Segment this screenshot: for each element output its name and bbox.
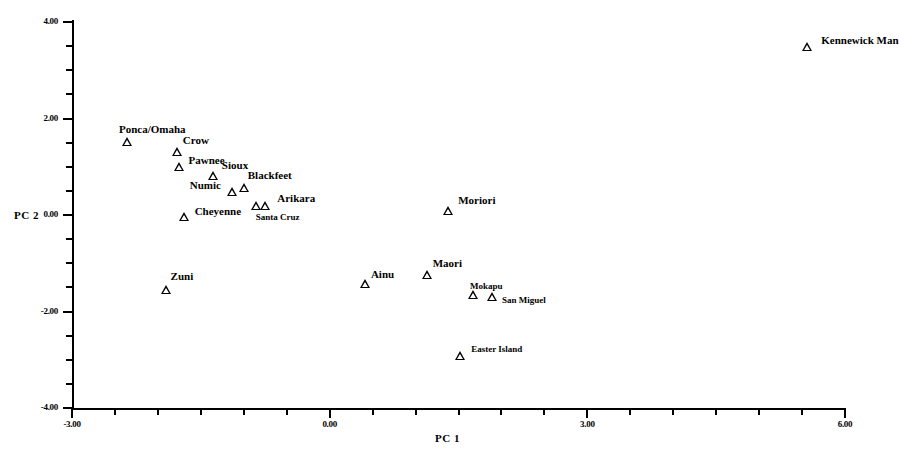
- x-axis-tick-label: 3.00: [557, 420, 617, 429]
- data-point-marker[interactable]: [239, 183, 249, 192]
- y-axis-tick-minor: [66, 383, 73, 385]
- y-axis-tick-major: [63, 214, 73, 216]
- x-axis-tick-minor: [157, 409, 159, 415]
- y-axis-tick-minor: [66, 69, 73, 71]
- x-axis-tick-minor: [672, 409, 674, 415]
- x-axis-tick-label: -3.00: [42, 420, 102, 429]
- data-point-label: Mokapu: [470, 281, 503, 291]
- data-point-marker[interactable]: [443, 206, 453, 215]
- data-point-marker[interactable]: [487, 292, 497, 301]
- y-axis-tick-minor: [66, 262, 73, 264]
- data-point-marker[interactable]: [174, 162, 184, 171]
- x-axis-tick-minor: [801, 409, 803, 415]
- data-point-label: Maori: [433, 258, 462, 268]
- y-axis-tick-major: [63, 118, 73, 120]
- x-axis-tick-minor: [114, 409, 116, 415]
- x-axis-tick-minor: [458, 409, 460, 415]
- data-point-marker[interactable]: [172, 147, 182, 156]
- y-axis-tick-label: 0.00: [0, 210, 58, 219]
- data-point-label: Zuni: [171, 271, 194, 281]
- x-axis-tick-minor: [629, 409, 631, 415]
- data-point-label: Moriori: [458, 195, 495, 205]
- y-axis-tick-minor: [66, 45, 73, 47]
- data-point-label: Sioux: [222, 160, 248, 170]
- y-axis-tick-label: -2.00: [0, 307, 58, 316]
- y-axis-tick-label: 2.00: [0, 114, 58, 123]
- data-point-marker[interactable]: [251, 201, 261, 210]
- x-axis-title: PC 1: [0, 432, 895, 444]
- x-axis-tick-minor: [500, 409, 502, 415]
- data-point-label: Pawnee: [189, 155, 225, 165]
- y-axis-tick-minor: [66, 190, 73, 192]
- data-point-label: Numic: [190, 180, 221, 190]
- x-axis-tick-major: [329, 409, 331, 418]
- y-axis-tick-minor: [66, 93, 73, 95]
- x-axis-tick-minor: [243, 409, 245, 415]
- x-axis-tick-minor: [758, 409, 760, 415]
- x-axis-tick-minor: [200, 409, 202, 415]
- x-axis-tick-minor: [286, 409, 288, 415]
- y-axis-tick-label: 4.00: [0, 17, 58, 26]
- y-axis-tick-minor: [66, 142, 73, 144]
- data-point-marker[interactable]: [161, 285, 171, 294]
- data-point-marker[interactable]: [227, 187, 237, 196]
- x-axis-tick-minor: [543, 409, 545, 415]
- y-axis-tick-major: [63, 21, 73, 23]
- data-point-label: Arikara: [277, 193, 315, 203]
- data-point-label: San Miguel: [502, 295, 546, 305]
- data-point-marker[interactable]: [468, 290, 478, 299]
- data-point-label: Crow: [183, 135, 209, 145]
- x-axis-tick-major: [71, 409, 73, 418]
- y-axis-tick-major: [63, 311, 73, 313]
- x-axis-tick-major: [844, 409, 846, 418]
- data-point-marker[interactable]: [179, 212, 189, 221]
- y-axis-tick-minor: [66, 286, 73, 288]
- x-axis-tick-label: 6.00: [815, 420, 875, 429]
- data-point-marker[interactable]: [802, 42, 812, 51]
- data-point-label: Kennewick Man: [821, 35, 898, 45]
- data-point-label: Santa Cruz: [256, 212, 300, 222]
- y-axis-tick-minor: [66, 359, 73, 361]
- x-axis-tick-major: [586, 409, 588, 418]
- x-axis-tick-minor: [715, 409, 717, 415]
- data-point-label: Ainu: [371, 269, 394, 279]
- data-point-marker[interactable]: [360, 279, 370, 288]
- x-axis-tick-minor: [415, 409, 417, 415]
- y-axis-tick-minor: [66, 335, 73, 337]
- data-point-marker[interactable]: [260, 201, 270, 210]
- y-axis-tick-minor: [66, 166, 73, 168]
- data-point-label: Ponca/Omaha: [119, 124, 186, 134]
- data-point-label: Blackfeet: [248, 170, 292, 180]
- data-point-marker[interactable]: [422, 270, 432, 279]
- data-point-marker[interactable]: [455, 351, 465, 360]
- data-point-label: Cheyenne: [195, 206, 241, 216]
- x-axis-tick-label: 0.00: [300, 420, 360, 429]
- x-axis-tick-minor: [372, 409, 374, 415]
- data-point-label: Easter Island: [471, 344, 522, 354]
- y-axis-tick-minor: [66, 238, 73, 240]
- y-axis-tick-label: -4.00: [0, 403, 58, 412]
- data-point-marker[interactable]: [122, 137, 132, 146]
